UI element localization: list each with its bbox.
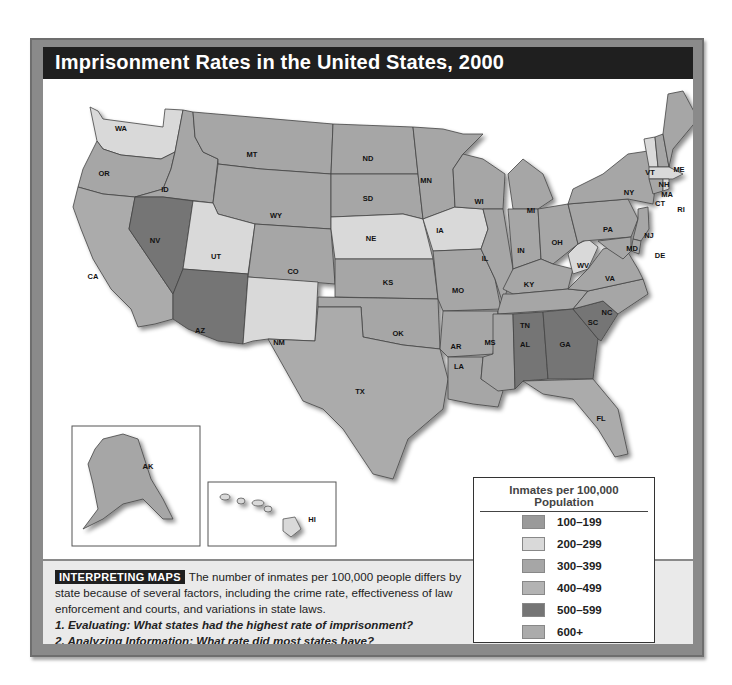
hawaii-inset <box>208 482 336 546</box>
state-NM[interactable] <box>243 277 318 344</box>
svg-text:SD: SD <box>363 194 374 203</box>
map-title: Imprisonment Rates in the United States,… <box>55 51 504 74</box>
legend-item-400-499: 400–499 <box>522 580 602 596</box>
svg-text:NJ: NJ <box>644 231 654 240</box>
svg-text:ME: ME <box>673 165 684 174</box>
state-AZ[interactable] <box>173 269 248 344</box>
svg-text:WA: WA <box>115 124 128 133</box>
state-NE[interactable] <box>331 214 433 259</box>
svg-text:OH: OH <box>551 238 562 247</box>
legend-swatch <box>522 581 545 595</box>
svg-text:OR: OR <box>98 169 110 178</box>
svg-text:OK: OK <box>392 329 404 338</box>
svg-text:WI: WI <box>474 197 483 206</box>
legend-item-500-599: 500–599 <box>522 602 602 618</box>
state-SD[interactable] <box>331 174 423 219</box>
svg-text:MN: MN <box>420 176 432 185</box>
svg-text:WV: WV <box>577 261 589 270</box>
svg-text:AZ: AZ <box>195 326 205 335</box>
svg-text:ND: ND <box>363 154 374 163</box>
legend-swatch <box>522 625 545 639</box>
svg-text:IN: IN <box>517 246 525 255</box>
svg-text:LA: LA <box>454 362 465 371</box>
legend: Inmates per 100,000 Population 100–199 2… <box>473 477 655 643</box>
svg-text:MD: MD <box>626 244 638 253</box>
svg-text:KS: KS <box>383 278 393 287</box>
legend-item-200-299: 200–299 <box>522 536 602 552</box>
state-ME[interactable] <box>663 91 693 167</box>
state-AL[interactable] <box>513 312 548 389</box>
state-IN[interactable] <box>508 209 541 269</box>
svg-text:IL: IL <box>482 254 489 263</box>
title-bar: Imprisonment Rates in the United States,… <box>43 47 693 79</box>
svg-text:IA: IA <box>436 226 444 235</box>
svg-text:MA: MA <box>661 190 673 199</box>
svg-text:FL: FL <box>596 414 606 423</box>
legend-swatch <box>522 537 545 551</box>
legend-title: Inmates per 100,000 Population <box>480 484 648 512</box>
legend-swatch <box>522 603 545 617</box>
svg-text:NH: NH <box>659 180 670 189</box>
question-2: 2. Analyzing Information: What rate did … <box>55 634 374 644</box>
svg-text:SC: SC <box>588 318 599 327</box>
svg-text:AL: AL <box>520 340 530 349</box>
legend-swatch <box>522 559 545 573</box>
state-FL[interactable] <box>523 379 628 457</box>
svg-text:VA: VA <box>605 274 615 283</box>
svg-text:MT: MT <box>247 150 258 159</box>
state-MI[interactable] <box>508 159 553 209</box>
svg-text:CA: CA <box>88 272 99 281</box>
svg-text:DE: DE <box>655 251 665 260</box>
svg-text:UT: UT <box>211 252 221 261</box>
svg-text:KY: KY <box>524 280 534 289</box>
svg-text:NE: NE <box>366 234 376 243</box>
question-1: 1. Evaluating: What states had the highe… <box>55 618 413 631</box>
svg-text:MS: MS <box>484 338 495 347</box>
svg-text:AK: AK <box>143 462 154 471</box>
svg-text:NM: NM <box>273 338 285 347</box>
svg-text:WY: WY <box>270 211 282 220</box>
map-panel: Imprisonment Rates in the United States,… <box>43 47 693 644</box>
legend-item-100-199: 100–199 <box>522 514 602 530</box>
svg-text:MO: MO <box>452 286 464 295</box>
interpreting-maps-badge: INTERPRETING MAPS <box>55 570 185 584</box>
legend-swatch <box>522 515 545 529</box>
svg-text:NY: NY <box>624 188 634 197</box>
state-NY[interactable] <box>568 151 655 204</box>
svg-text:MI: MI <box>527 206 535 215</box>
svg-text:RI: RI <box>677 205 685 214</box>
svg-text:GA: GA <box>559 340 571 349</box>
svg-text:TX: TX <box>355 387 365 396</box>
caption-text: INTERPRETING MAPSThe number of inmates p… <box>55 569 475 644</box>
svg-text:CO: CO <box>287 267 298 276</box>
legend-item-300-399: 300–399 <box>522 558 602 574</box>
svg-text:TN: TN <box>520 321 530 330</box>
svg-text:AR: AR <box>451 342 462 351</box>
svg-text:VT: VT <box>645 168 655 177</box>
svg-text:ID: ID <box>161 185 169 194</box>
svg-text:CT: CT <box>655 199 665 208</box>
map-frame: Imprisonment Rates in the United States,… <box>30 38 704 657</box>
svg-text:NC: NC <box>602 308 613 317</box>
svg-text:PA: PA <box>603 225 613 234</box>
svg-text:NV: NV <box>150 236 160 245</box>
state-AR[interactable] <box>440 311 498 357</box>
state-ND[interactable] <box>331 124 418 174</box>
legend-item-600-plus: 600+ <box>522 624 583 640</box>
svg-text:HI: HI <box>308 515 316 524</box>
